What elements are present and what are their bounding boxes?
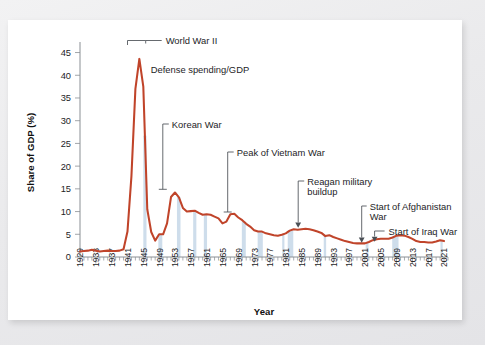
y-tick-label: 0 [66,252,71,262]
x-tick-label: 1957 [186,248,196,267]
x-tick-label: 1965 [218,248,228,267]
x-tick-label: 1969 [234,248,244,267]
x-tick-label: 1989 [313,248,323,267]
screenshot-root: 0510152025303540451929193319371941194519… [0,0,485,345]
y-tick-label: 35 [61,93,71,103]
x-tick-label: 2017 [424,248,434,267]
y-tick-label: 25 [61,139,71,149]
x-tick-label: 1993 [329,248,339,267]
x-tick-label: 1977 [265,248,275,267]
leader-peak-of-vietnam-war [228,152,234,212]
x-tick-label: 1941 [123,248,133,267]
y-tick-label: 20 [61,162,71,172]
arrow-reagan-military-buildup [295,223,301,228]
annotation-start-of-afghanistan-war-line2: War [370,211,387,222]
y-tick-label: 15 [61,184,71,194]
x-tick-label: 1949 [155,248,165,267]
annotation-defense-spending-gdp: Defense spending/GDP [151,64,250,75]
y-tick-label: 40 [61,71,71,81]
x-tick-label: 2001 [360,248,370,267]
x-tick-label: 2013 [408,248,418,267]
y-tick-label: 5 [66,230,71,240]
figure-card: 0510152025303540451929193319371941194519… [8,20,462,320]
leader-korean-war [163,124,169,189]
x-tick-label: 1953 [170,248,180,267]
annotation-start-of-iraq-war: Start of Iraq War [389,226,457,237]
annotation-reagan-military-buildup-line2: buildup [307,186,337,197]
x-tick-label: 2005 [376,248,386,267]
annotation-korean-war: Korean War [172,119,222,130]
annotation-world-war-2: World War II [166,35,218,46]
y-tick-label: 45 [61,48,71,58]
y-tick-label: 30 [61,116,71,126]
leader-start-of-afghanistan-war [362,206,367,237]
x-tick-label: 2021 [439,248,449,267]
x-tick-label: 1981 [281,248,291,267]
y-tick-label: 10 [61,207,71,217]
annotation-peak-of-vietnam-war: Peak of Vietnam War [237,147,325,158]
x-tick-label: 1973 [250,248,260,267]
annotations: World War IIDefense spending/GDPKorean W… [128,35,458,243]
y-axis-title: Share of GDP (%) [25,113,36,192]
defense-spending-line-chart: 0510152025303540451929193319371941194519… [8,20,462,320]
x-tick-label: 1997 [344,248,354,267]
x-axis-title: Year [254,306,275,317]
leader-world-war-2 [128,41,146,46]
annotation-reagan-military-buildup: Reagan military [307,176,372,187]
leader-reagan-military-buildup [298,181,304,222]
annotation-start-of-afghanistan-war: Start of Afghanistan [370,201,452,212]
chart-plot-area: 0510152025303540451929193319371941194519… [8,20,462,320]
x-tick-label: 1985 [297,248,307,267]
recession-band [324,236,326,257]
x-tick-label: 1945 [139,248,149,267]
x-tick-label: 1961 [202,248,212,267]
arrow-start-of-afghanistan-war [359,238,365,243]
x-tick-label: 2009 [392,248,402,267]
